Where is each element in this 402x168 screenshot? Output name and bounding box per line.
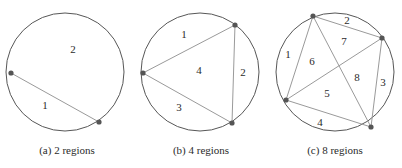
vertex-c-3 — [368, 124, 373, 129]
circle-outline-a — [6, 13, 124, 131]
region-label-c-3: 3 — [380, 76, 386, 88]
region-label-b-1: 1 — [181, 28, 187, 40]
panel-a: 1 2 (a) 2 regions — [0, 0, 134, 168]
chord-b-2 — [143, 73, 232, 123]
panel-b: 1 2 3 4 (b) 4 regions — [134, 0, 268, 168]
circle-outline-c — [276, 13, 394, 131]
region-label-b-3: 3 — [176, 101, 182, 113]
vertex-a-1 — [8, 70, 13, 75]
region-label-b-2: 2 — [240, 66, 246, 78]
diagram-c: 1 2 3 4 5 6 7 8 — [268, 0, 402, 142]
region-label-c-2: 2 — [344, 14, 350, 26]
vertex-c-1 — [310, 13, 315, 18]
vertex-a-2 — [96, 119, 101, 124]
caption-b: (b) 4 regions — [134, 143, 268, 157]
vertex-b-1 — [140, 70, 145, 75]
region-label-c-6: 6 — [309, 55, 315, 67]
region-label-c-1: 1 — [285, 48, 291, 60]
region-label-b-4: 4 — [196, 64, 202, 76]
vertex-b-2 — [232, 22, 237, 27]
caption-a: (a) 2 regions — [0, 143, 134, 157]
chord-c-5 — [286, 38, 382, 100]
diagram-a: 1 2 — [0, 0, 134, 142]
vertex-b-3 — [229, 120, 234, 125]
region-label-c-4: 4 — [317, 116, 323, 128]
region-label-c-5: 5 — [324, 87, 330, 99]
region-label-c-7: 7 — [341, 35, 347, 47]
chord-c-2 — [313, 16, 371, 127]
circle-regions-figure: 1 2 (a) 2 regions 1 2 3 4 (b) 4 regions — [0, 0, 402, 168]
vertex-c-4 — [283, 97, 288, 102]
chord-b-3 — [232, 25, 235, 123]
region-label-a-2: 2 — [70, 43, 76, 55]
chord-c-6 — [286, 100, 371, 127]
diagram-b: 1 2 3 4 — [134, 0, 268, 142]
vertex-c-2 — [379, 35, 384, 40]
panel-c: 1 2 3 4 5 6 7 8 (c) 8 regions — [268, 0, 402, 168]
region-label-c-8: 8 — [354, 71, 360, 83]
region-label-a-1: 1 — [42, 99, 48, 111]
caption-c: (c) 8 regions — [268, 143, 402, 157]
